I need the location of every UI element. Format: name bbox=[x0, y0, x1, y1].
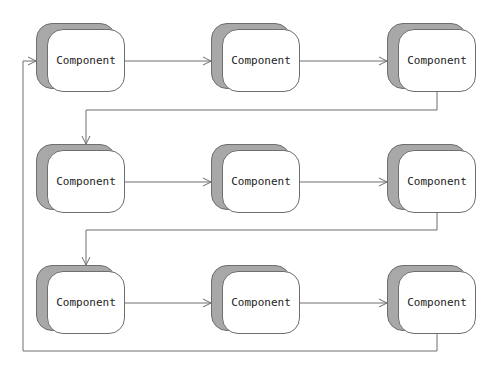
node-box: Component bbox=[47, 150, 125, 213]
component-node-1[interactable]: Component bbox=[36, 23, 126, 93]
diagram-canvas: Component Component Component Component … bbox=[0, 0, 498, 370]
node-label: Component bbox=[231, 54, 291, 67]
node-box: Component bbox=[398, 271, 476, 334]
node-label: Component bbox=[56, 175, 116, 188]
node-box: Component bbox=[398, 29, 476, 92]
component-node-3[interactable]: Component bbox=[387, 23, 477, 93]
node-label: Component bbox=[56, 54, 116, 67]
component-node-9[interactable]: Component bbox=[387, 265, 477, 335]
component-node-7[interactable]: Component bbox=[36, 265, 126, 335]
component-node-6[interactable]: Component bbox=[387, 144, 477, 214]
node-box: Component bbox=[222, 29, 300, 92]
component-node-8[interactable]: Component bbox=[211, 265, 301, 335]
node-label: Component bbox=[231, 296, 291, 309]
node-box: Component bbox=[47, 271, 125, 334]
node-box: Component bbox=[222, 271, 300, 334]
node-box: Component bbox=[47, 29, 125, 92]
node-label: Component bbox=[407, 296, 467, 309]
node-label: Component bbox=[407, 175, 467, 188]
node-label: Component bbox=[407, 54, 467, 67]
node-label: Component bbox=[231, 175, 291, 188]
node-label: Component bbox=[56, 296, 116, 309]
component-node-5[interactable]: Component bbox=[211, 144, 301, 214]
component-node-2[interactable]: Component bbox=[211, 23, 301, 93]
edge-n6-n7 bbox=[86, 213, 437, 265]
edge-n3-n4 bbox=[86, 92, 437, 144]
node-box: Component bbox=[222, 150, 300, 213]
component-node-4[interactable]: Component bbox=[36, 144, 126, 214]
node-box: Component bbox=[398, 150, 476, 213]
